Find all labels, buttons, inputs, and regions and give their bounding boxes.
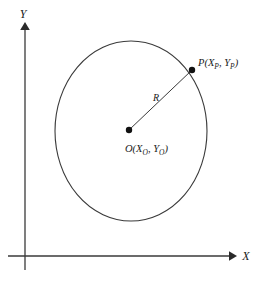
center-label-close-paren: ) bbox=[163, 143, 168, 155]
center-point-marker bbox=[126, 127, 132, 133]
point-p-marker bbox=[189, 67, 195, 73]
x-axis-label: X bbox=[241, 249, 250, 263]
arrow-up-icon bbox=[20, 22, 30, 30]
arrow-right-icon bbox=[229, 251, 237, 261]
point-p-label: P(XP, YP) bbox=[197, 57, 239, 71]
radius-segment bbox=[129, 70, 192, 130]
p-label-close-paren: ) bbox=[234, 57, 239, 69]
geometry-figure: Y X R O(XO, YO) P(XP, YP) bbox=[0, 0, 259, 282]
figure-canvas: Y X R O(XO, YO) P(XP, YP) bbox=[0, 0, 259, 282]
radius-label: R bbox=[152, 92, 159, 103]
y-axis-label: Y bbox=[20, 7, 28, 21]
center-point-label: O(XO, YO) bbox=[125, 143, 168, 157]
